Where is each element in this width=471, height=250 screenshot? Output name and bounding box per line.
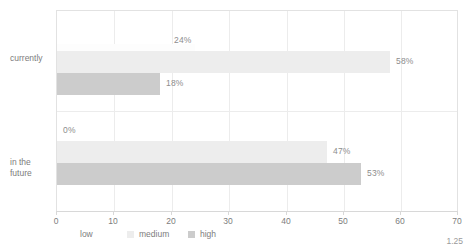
- bar-currently-medium: [57, 51, 390, 73]
- bar-chart: 24% 58% 18% 0% 47% 53% currently in the …: [0, 0, 471, 250]
- bar-value-currently-medium: 58%: [396, 56, 414, 66]
- legend-label-low: low: [80, 229, 93, 239]
- bar-value-future-high: 53%: [367, 168, 385, 178]
- legend-swatch-medium-icon: [127, 231, 134, 238]
- x-tick-label-40: 40: [281, 216, 290, 226]
- x-tick-mark-40: [286, 211, 287, 215]
- category-label-currently-text: currently: [10, 53, 43, 64]
- legend-label-medium: medium: [139, 229, 169, 239]
- category-label-future-line1: in the: [10, 157, 31, 168]
- x-tick-label-60: 60: [395, 216, 404, 226]
- x-tick-mark-10: [113, 211, 114, 215]
- legend-item-low[interactable]: low: [68, 228, 93, 240]
- legend-label-high: high: [200, 229, 216, 239]
- x-tick-label-10: 10: [108, 216, 117, 226]
- legend-item-high[interactable]: high: [188, 228, 216, 240]
- bar-value-currently-low: 24%: [174, 35, 192, 45]
- bar-future-medium: [57, 141, 327, 163]
- x-axis-line: [56, 211, 458, 212]
- x-tick-label-20: 20: [166, 216, 175, 226]
- x-tick-mark-50: [343, 211, 344, 215]
- x-tick-label-70: 70: [452, 216, 461, 226]
- legend-swatch-low-icon: [68, 231, 75, 238]
- x-tick-label-30: 30: [223, 216, 232, 226]
- bar-currently-high: [57, 73, 160, 95]
- plot-area: 24% 58% 18% 0% 47% 53%: [56, 10, 458, 212]
- bar-value-future-medium: 47%: [333, 146, 351, 156]
- legend-item-medium[interactable]: medium: [127, 228, 169, 240]
- x-tick-label-0: 0: [54, 216, 59, 226]
- category-label-future-line2: future: [10, 168, 32, 179]
- bar-value-future-low: 0%: [63, 125, 76, 135]
- x-tick-mark-30: [228, 211, 229, 215]
- x-tick-mark-0: [56, 211, 57, 215]
- footer-note: 1.25: [446, 236, 463, 246]
- gridline-group-separator: [57, 111, 457, 112]
- bar-future-high: [57, 163, 361, 185]
- x-tick-mark-60: [400, 211, 401, 215]
- bar-value-currently-high: 18%: [166, 78, 184, 88]
- x-tick-mark-20: [171, 211, 172, 215]
- x-tick-label-50: 50: [338, 216, 347, 226]
- x-tick-mark-70: [457, 211, 458, 215]
- legend-swatch-high-icon: [188, 231, 195, 238]
